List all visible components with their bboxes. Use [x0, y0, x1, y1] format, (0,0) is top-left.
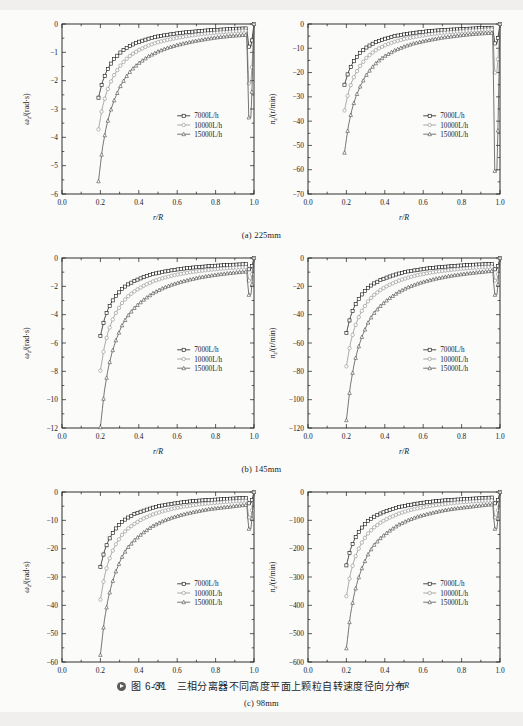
svg-text:0.6: 0.6: [173, 666, 183, 675]
svg-text:0: 0: [54, 20, 58, 29]
svg-text:−70: −70: [292, 190, 304, 199]
svg-text:0.8: 0.8: [211, 432, 221, 441]
svg-text:−5: −5: [50, 161, 58, 170]
chart-a-omega-svg: 0.00.20.40.60.81.00−1−2−3−4−5−6r/Rωz/(ra…: [16, 8, 264, 236]
chart-c-n: 0.00.20.40.60.81.00−100−200−300−400−500−…: [262, 476, 510, 704]
svg-text:r/R: r/R: [399, 447, 409, 456]
figure-area: 0.00.20.40.60.81.00−1−2−3−4−5−6r/Rωz/(ra…: [0, 8, 523, 704]
page-bottom-band: [0, 712, 523, 726]
subplot-row-b: 0.00.20.40.60.81.00−2−4−6−8−10−12r/Rωz/(…: [0, 242, 523, 470]
svg-text:−120: −120: [289, 424, 305, 433]
svg-text:nz/(r/min): nz/(r/min): [268, 561, 278, 592]
svg-text:−60: −60: [292, 165, 304, 174]
svg-text:15000L/h: 15000L/h: [440, 131, 468, 139]
svg-text:0.6: 0.6: [419, 198, 429, 207]
svg-text:−10: −10: [46, 395, 58, 404]
svg-text:0: 0: [54, 254, 58, 263]
svg-text:7000L/h: 7000L/h: [440, 346, 465, 354]
svg-text:−20: −20: [46, 544, 58, 553]
svg-text:0.2: 0.2: [342, 666, 352, 675]
svg-text:10000L/h: 10000L/h: [440, 122, 468, 130]
chart-b-n-svg: 0.00.20.40.60.81.00−20−40−60−80−100−120r…: [262, 242, 510, 470]
svg-text:10000L/h: 10000L/h: [194, 590, 222, 598]
svg-text:r/R: r/R: [153, 213, 163, 222]
svg-text:0: 0: [54, 488, 58, 497]
svg-text:−300: −300: [289, 573, 305, 582]
svg-text:nz/(r/min): nz/(r/min): [268, 93, 278, 124]
svg-text:10000L/h: 10000L/h: [440, 356, 468, 364]
svg-text:−50: −50: [46, 629, 58, 638]
svg-text:−60: −60: [292, 339, 304, 348]
svg-text:15000L/h: 15000L/h: [194, 599, 222, 607]
svg-text:−50: −50: [292, 141, 304, 150]
svg-text:15000L/h: 15000L/h: [194, 365, 222, 373]
svg-text:0.8: 0.8: [457, 666, 467, 675]
svg-text:r/R: r/R: [153, 447, 163, 456]
chart-a-n: 0.00.20.40.60.81.00−10−20−30−40−50−60−70…: [262, 8, 510, 236]
svg-text:−30: −30: [292, 92, 304, 101]
svg-text:0.6: 0.6: [173, 432, 183, 441]
svg-text:0.0: 0.0: [57, 432, 67, 441]
panel-caption-b: (b) 145mm: [0, 464, 523, 474]
svg-text:0.6: 0.6: [419, 666, 429, 675]
svg-text:7000L/h: 7000L/h: [194, 580, 219, 588]
figure-caption-text: 三相分离器不同高度平面上颗粒自转速度径向分布: [177, 681, 406, 692]
svg-text:0.0: 0.0: [57, 198, 67, 207]
svg-text:7000L/h: 7000L/h: [194, 346, 219, 354]
svg-text:0.4: 0.4: [134, 432, 144, 441]
svg-text:7000L/h: 7000L/h: [440, 580, 465, 588]
svg-text:0.8: 0.8: [457, 432, 467, 441]
svg-text:15000L/h: 15000L/h: [440, 599, 468, 607]
svg-text:−60: −60: [46, 658, 58, 667]
chart-a-n-svg: 0.00.20.40.60.81.00−10−20−30−40−50−60−70…: [262, 8, 510, 236]
svg-text:0.2: 0.2: [342, 432, 352, 441]
svg-text:0.0: 0.0: [303, 432, 313, 441]
svg-text:7000L/h: 7000L/h: [440, 112, 465, 120]
svg-text:ωz/(rad·s): ωz/(rad·s): [22, 93, 32, 125]
svg-text:−400: −400: [289, 601, 305, 610]
svg-text:0.4: 0.4: [380, 198, 390, 207]
svg-text:−100: −100: [289, 516, 305, 525]
panel-caption-c: (c) 98mm: [0, 698, 523, 708]
svg-text:1.0: 1.0: [249, 198, 259, 207]
svg-text:1.0: 1.0: [249, 432, 259, 441]
caption-bullet-icon: [117, 682, 126, 691]
chart-b-omega: 0.00.20.40.60.81.00−2−4−6−8−10−12r/Rωz/(…: [16, 242, 264, 470]
svg-text:0.0: 0.0: [303, 198, 313, 207]
svg-text:0.8: 0.8: [457, 198, 467, 207]
svg-text:−6: −6: [50, 339, 58, 348]
svg-text:−600: −600: [289, 658, 305, 667]
panel-caption-a: (a) 225mm: [0, 230, 523, 240]
svg-text:0.6: 0.6: [173, 198, 183, 207]
svg-text:−4: −4: [50, 310, 58, 319]
svg-text:−30: −30: [46, 573, 58, 582]
chart-b-omega-svg: 0.00.20.40.60.81.00−2−4−6−8−10−12r/Rωz/(…: [16, 242, 264, 470]
svg-text:−80: −80: [292, 367, 304, 376]
svg-text:−1: −1: [50, 48, 58, 57]
svg-text:15000L/h: 15000L/h: [440, 365, 468, 373]
svg-text:10000L/h: 10000L/h: [194, 122, 222, 130]
svg-text:r/R: r/R: [399, 213, 409, 222]
chart-c-omega: 0.00.20.40.60.81.00−10−20−30−40−50−60r/R…: [16, 476, 264, 704]
svg-text:−20: −20: [292, 68, 304, 77]
svg-text:−500: −500: [289, 629, 305, 638]
svg-text:−40: −40: [292, 117, 304, 126]
svg-text:0: 0: [300, 254, 304, 263]
svg-text:nz/(r/min): nz/(r/min): [268, 327, 278, 358]
svg-text:−6: −6: [50, 190, 58, 199]
svg-text:−100: −100: [289, 395, 305, 404]
svg-text:0.2: 0.2: [96, 198, 106, 207]
svg-text:0.4: 0.4: [380, 432, 390, 441]
svg-text:ωz/(rad·s): ωz/(rad·s): [22, 561, 32, 593]
svg-text:0.0: 0.0: [303, 666, 313, 675]
svg-text:0.6: 0.6: [419, 432, 429, 441]
svg-text:0.2: 0.2: [96, 666, 106, 675]
svg-text:−10: −10: [292, 44, 304, 53]
subplot-row-c: 0.00.20.40.60.81.00−10−20−30−40−50−60r/R…: [0, 476, 523, 704]
svg-text:−40: −40: [46, 601, 58, 610]
svg-text:0.4: 0.4: [134, 666, 144, 675]
svg-text:−200: −200: [289, 544, 305, 553]
svg-text:−2: −2: [50, 282, 58, 291]
svg-text:−3: −3: [50, 105, 58, 114]
svg-text:10000L/h: 10000L/h: [194, 356, 222, 364]
